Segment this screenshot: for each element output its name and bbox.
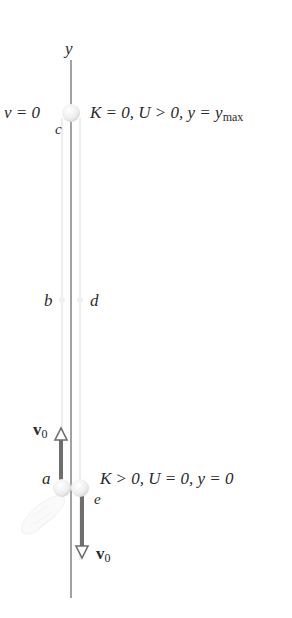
downward-velocity-label: v0 (96, 545, 111, 564)
downward-velocity-subscript: 0 (105, 551, 111, 565)
top-energy-label: K = 0, U > 0, y = ymax (90, 104, 243, 123)
point-b-marker (59, 297, 65, 303)
top-U-text: U > 0, (138, 103, 183, 122)
upward-velocity-subscript: 0 (42, 427, 48, 441)
point-a-label: a (42, 470, 51, 487)
y-axis-label: y (65, 40, 73, 57)
top-K-text: K = 0, (90, 103, 134, 122)
top-y-text: y = y (188, 103, 223, 122)
downward-velocity-symbol: v (96, 544, 105, 563)
bottom-y-text: y = 0 (198, 469, 234, 488)
upward-arrowhead-icon (55, 428, 67, 440)
point-b-label: b (44, 292, 53, 309)
hand-icon (22, 495, 65, 534)
downward-arrowhead-icon (76, 546, 88, 558)
point-e-label: e (94, 492, 101, 507)
top-velocity-label: v = 0 (4, 104, 40, 121)
ball-a (53, 479, 71, 497)
top-velocity-text: v = 0 (4, 103, 40, 122)
upward-velocity-label: v0 (33, 421, 48, 440)
point-d-marker (77, 297, 83, 303)
point-c-label: c (55, 122, 62, 137)
point-d-label: d (90, 292, 99, 309)
bottom-K-text: K > 0, (100, 469, 144, 488)
top-y-subscript: max (223, 110, 244, 124)
upward-velocity-symbol: v (33, 420, 42, 439)
ball-c (62, 104, 80, 122)
bottom-energy-label: K > 0, U = 0, y = 0 (100, 470, 234, 487)
bottom-U-text: U = 0, (148, 469, 193, 488)
ball-e (71, 479, 89, 497)
